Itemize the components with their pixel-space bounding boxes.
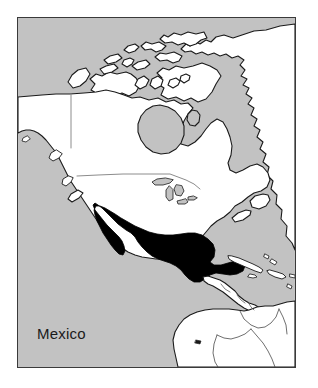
map-canvas bbox=[18, 18, 295, 367]
ungava-bay bbox=[187, 110, 200, 126]
puerto-rico-island bbox=[290, 274, 295, 278]
map-country-label: Mexico bbox=[37, 325, 86, 342]
map-frame bbox=[17, 17, 296, 368]
galapagos-islands bbox=[195, 340, 201, 344]
locator-map-figure: Mexico bbox=[0, 0, 318, 388]
